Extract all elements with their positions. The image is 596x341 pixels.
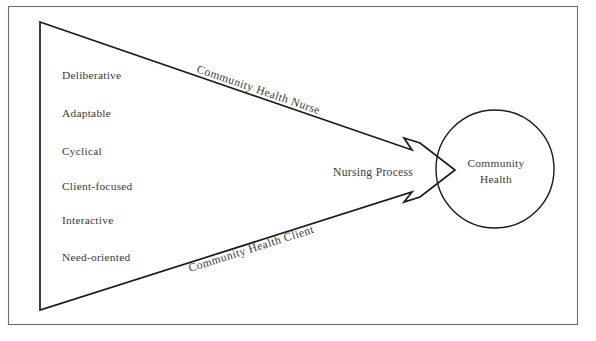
diagram-canvas: Deliberative Adaptable Cyclical Client-f… — [0, 0, 596, 341]
nursing-process-label: Nursing Process — [333, 166, 413, 179]
attribute-label-client-focused: Client-focused — [62, 180, 133, 192]
attribute-label-adaptable: Adaptable — [62, 107, 111, 119]
diagram-figure: Deliberative Adaptable Cyclical Client-f… — [0, 0, 596, 341]
attribute-label-need-oriented: Need-oriented — [62, 251, 130, 263]
lower-edge-label-community-health-client: Community Health Client — [187, 223, 316, 275]
outcome-label-line1: Community — [467, 157, 524, 169]
outcome-label-line2: Health — [480, 173, 512, 185]
attribute-label-interactive: Interactive — [62, 214, 113, 226]
upper-edge-label-community-health-nurse: Community Health Nurse — [195, 63, 322, 118]
attribute-label-deliberative: Deliberative — [62, 69, 121, 81]
attribute-label-cyclical: Cyclical — [62, 145, 102, 157]
